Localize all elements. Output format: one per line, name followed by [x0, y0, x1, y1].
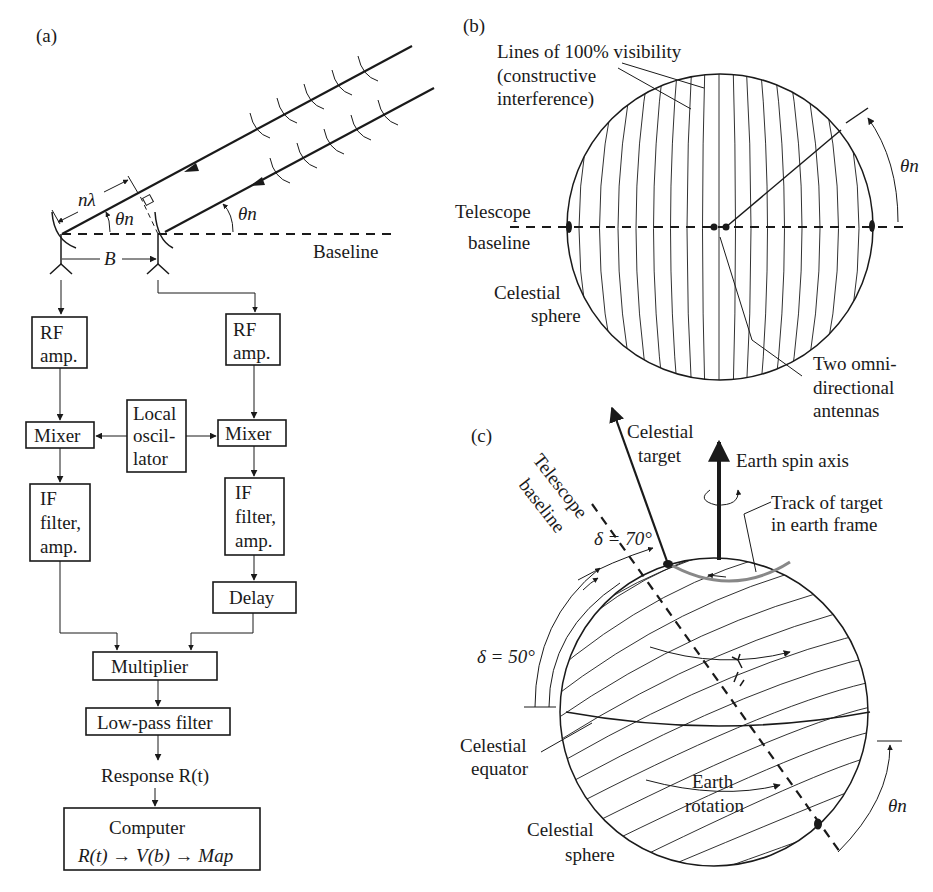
celestial-sphere-label-b-1: Celestial: [494, 282, 560, 303]
angle-label-c: θn: [888, 795, 907, 816]
fringe-lines: [536, 60, 903, 400]
wavefronts-1: [250, 56, 378, 138]
track-label-1: Track of target: [771, 492, 884, 513]
fringes-label-2: (constructive: [497, 65, 596, 87]
antenna-dot-1: [711, 224, 718, 231]
local-oscillator-line3: lator: [133, 448, 168, 469]
rf-amp-left-line2: amp.: [40, 345, 77, 366]
fringes-label-3: interference): [497, 88, 594, 110]
delay-label: Delay: [229, 587, 275, 608]
earth-rotation-label-2: rotation: [685, 795, 745, 816]
celestial-sphere-label-b-2: sphere: [531, 305, 581, 326]
panel-b: (b) Lines of 100% visibility (constructi…: [455, 15, 919, 421]
low-pass-filter-label: Low-pass filter: [97, 712, 213, 733]
angle-label-b: θn: [900, 155, 919, 176]
mixer-right-label: Mixer: [225, 423, 272, 444]
if-filter-right-line2: filter,: [235, 506, 276, 527]
ray-1: [62, 46, 412, 234]
antennas-label-1: Two omni-: [813, 353, 897, 374]
panel-a-label: (a): [36, 25, 57, 47]
if-filter-left-line2: filter,: [40, 512, 81, 533]
interferometer-figure: (a) Baseline: [0, 0, 933, 892]
celestial-equator-line: [566, 712, 870, 726]
if-filter-left-line1: IF: [40, 488, 57, 509]
angle-label-right: θn: [238, 203, 257, 224]
celestial-target-label-1: Celestial: [627, 421, 693, 442]
mixer-left-label: Mixer: [34, 425, 81, 446]
if-filter-right-line1: IF: [235, 482, 252, 503]
angle-label-left: θn: [115, 208, 134, 229]
telescope-baseline-label-1: Telescope: [455, 201, 531, 222]
celestial-sphere-label-c-2: sphere: [565, 844, 615, 865]
multiplier-label: Multiplier: [111, 656, 189, 677]
antennas-label-3: antennas: [813, 400, 879, 421]
celestial-equator-label-2: equator: [471, 758, 529, 779]
declination-50-label: δ = 50°: [477, 646, 535, 667]
panel-c: (c): [460, 408, 907, 880]
celestial-sphere-label-c-1: Celestial: [527, 819, 593, 840]
earth-spin-axis-label: Earth spin axis: [736, 450, 849, 471]
ray-2: [165, 88, 434, 232]
earth-rotation-label-1: Earth: [692, 771, 734, 792]
antennas-label-2: directional: [813, 377, 894, 398]
computer-title: Computer: [109, 817, 186, 838]
celestial-equator-label-1: Celestial: [460, 735, 526, 756]
fringes-label-1: Lines of 100% visibility: [497, 41, 682, 62]
baseline-label: Baseline: [313, 241, 378, 262]
rf-amp-left-line1: RF: [40, 322, 63, 343]
panel-c-label: (c): [471, 425, 492, 447]
if-filter-left-line3: amp.: [40, 536, 77, 557]
dish-left-icon: [52, 212, 76, 248]
track-label-2: in earth frame: [771, 514, 878, 535]
if-filter-right-line3: amp.: [235, 530, 272, 551]
local-oscillator-line2: oscil-: [133, 425, 175, 446]
antenna-right-icon: [147, 264, 169, 274]
rf-amp-right-line2: amp.: [233, 342, 270, 363]
path-difference-label: nλ: [78, 189, 96, 210]
declination-70-label: δ = 70°: [594, 528, 652, 549]
panel-b-label: (b): [463, 15, 485, 37]
ray-2-arrow-icon: [250, 177, 265, 186]
spin-rotation-icon: [704, 490, 738, 505]
local-oscillator-line1: Local: [133, 403, 176, 424]
baseline-vector-label: B: [104, 248, 116, 269]
antennas-icon-c: [732, 654, 744, 686]
response-label: Response R(t): [101, 765, 209, 787]
telescope-baseline-label-2: baseline: [468, 232, 530, 253]
panel-a: (a) Baseline: [26, 25, 434, 870]
computer-formula: R(t) → V(b) → Map: [77, 845, 233, 867]
antenna-left-icon: [50, 264, 72, 274]
celestial-target-label-2: target: [638, 445, 682, 466]
rf-amp-right-line1: RF: [233, 319, 256, 340]
target-track: [666, 562, 790, 581]
